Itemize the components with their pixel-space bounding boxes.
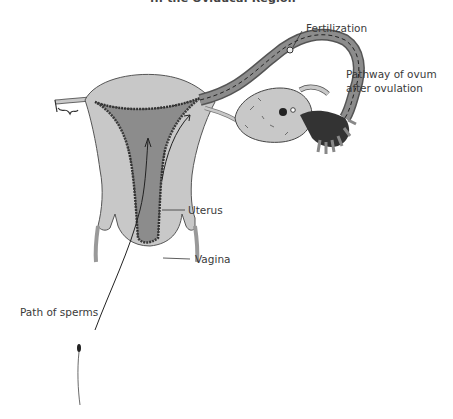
label-ovum-pathway-line1: Pathway of ovum [346,68,437,81]
fertilized-ovum-icon [287,47,293,53]
label-sperm-path: Path of sperms [20,306,98,319]
sperm-icon [77,344,81,405]
vagina-leader-line [163,258,190,259]
uterus [85,74,215,246]
ovulation-follicle-icon [279,108,287,116]
ovum-icon [291,108,296,113]
label-vagina: Vagina [195,253,230,266]
label-uterus: Uterus [188,204,223,217]
label-fertilization: Fertilization [306,22,367,35]
reproductive-tract-diagram [0,0,453,419]
label-ovum-pathway-line2: after ovulation [346,82,423,95]
